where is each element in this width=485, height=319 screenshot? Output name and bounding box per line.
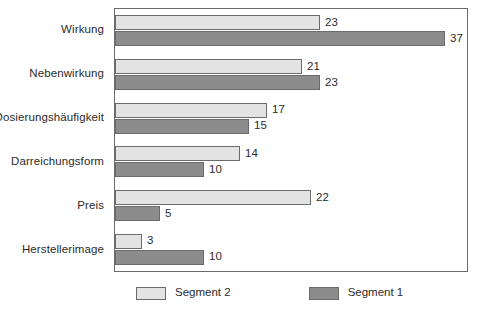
bars-layer: 2337212317151410225310 — [115, 9, 467, 271]
legend-item-segment-2[interactable]: Segment 2 — [136, 287, 231, 300]
bar-row-nebenwirkung-segment-2: 21 — [115, 59, 467, 74]
bar-darreichungsform-segment-1[interactable] — [115, 162, 204, 177]
category-label-text: Darreichungsform — [11, 156, 104, 168]
bar-row-darreichungsform-segment-1: 10 — [115, 162, 467, 177]
bar-value-label: 23 — [325, 77, 338, 89]
category-label-text: Nebenwirkung — [29, 68, 104, 80]
chart-legend: Segment 2Segment 1 — [114, 283, 468, 303]
bar-herstellerimage-segment-1[interactable] — [115, 250, 204, 265]
bar-herstellerimage-segment-2[interactable] — [115, 234, 142, 249]
bar-nebenwirkung-segment-1[interactable] — [115, 75, 320, 90]
bar-row-dosierungshaeufigkeit-segment-1: 15 — [115, 119, 467, 134]
bar-row-wirkung-segment-1: 37 — [115, 31, 467, 46]
bar-value-label: 37 — [450, 33, 463, 45]
category-label-text: Preis — [77, 200, 104, 212]
bar-value-label: 23 — [325, 17, 338, 29]
bar-row-wirkung-segment-2: 23 — [115, 15, 467, 30]
legend-item-segment-1[interactable]: Segment 1 — [309, 287, 404, 300]
plot-area: 2337212317151410225310 — [114, 8, 468, 272]
category-label-wirkung: Wirkung — [0, 8, 110, 52]
bar-row-dosierungshaeufigkeit-segment-2: 17 — [115, 103, 467, 118]
bar-group-nebenwirkung: 2123 — [115, 53, 467, 97]
bar-wirkung-segment-1[interactable] — [115, 31, 445, 46]
category-label-darreichungsform: Darreichungsform — [0, 140, 110, 184]
bar-row-herstellerimage-segment-2: 3 — [115, 234, 467, 249]
bar-value-label: 3 — [147, 235, 153, 247]
category-label-preis: Preis — [0, 184, 110, 228]
bar-group-herstellerimage: 310 — [115, 227, 467, 271]
bar-value-label: 10 — [209, 164, 222, 176]
bar-dosierungshaeufigkeit-segment-1[interactable] — [115, 119, 249, 134]
bar-group-preis: 225 — [115, 184, 467, 228]
bar-nebenwirkung-segment-2[interactable] — [115, 59, 302, 74]
bar-value-label: 22 — [316, 192, 329, 204]
category-label-text: Herstellerimage — [22, 244, 104, 256]
category-axis: Wirkung Nebenwirkung Dosierungshäufigkei… — [0, 8, 110, 272]
bar-group-wirkung: 2337 — [115, 9, 467, 53]
bar-value-label: 21 — [307, 61, 320, 73]
legend-swatch-icon — [136, 287, 166, 300]
bar-row-herstellerimage-segment-1: 10 — [115, 250, 467, 265]
bar-value-label: 15 — [254, 120, 267, 132]
bar-row-preis-segment-1: 5 — [115, 206, 467, 221]
category-label-text: Dosierungshäufigkeit — [0, 112, 104, 124]
bar-group-darreichungsform: 1410 — [115, 140, 467, 184]
bar-row-nebenwirkung-segment-1: 23 — [115, 75, 467, 90]
legend-swatch-icon — [309, 287, 339, 300]
bar-wirkung-segment-2[interactable] — [115, 15, 320, 30]
bar-value-label: 17 — [272, 104, 285, 116]
bar-value-label: 14 — [245, 148, 258, 160]
horizontal-bar-chart: Wirkung Nebenwirkung Dosierungshäufigkei… — [0, 0, 485, 319]
bar-dosierungshaeufigkeit-segment-2[interactable] — [115, 103, 267, 118]
bar-value-label: 10 — [209, 251, 222, 263]
category-label-nebenwirkung: Nebenwirkung — [0, 52, 110, 96]
bar-row-preis-segment-2: 22 — [115, 190, 467, 205]
category-label-herstellerimage: Herstellerimage — [0, 228, 110, 272]
bar-group-dosierungshaeufigkeit: 1715 — [115, 96, 467, 140]
bar-row-darreichungsform-segment-2: 14 — [115, 146, 467, 161]
bar-value-label: 5 — [165, 208, 171, 220]
bar-preis-segment-2[interactable] — [115, 190, 311, 205]
bar-darreichungsform-segment-2[interactable] — [115, 146, 240, 161]
category-label-dosierungshaeufigkeit: Dosierungshäufigkeit — [0, 96, 110, 140]
legend-label: Segment 2 — [175, 287, 231, 299]
category-label-text: Wirkung — [61, 24, 104, 36]
legend-label: Segment 1 — [348, 287, 404, 299]
bar-preis-segment-1[interactable] — [115, 206, 160, 221]
